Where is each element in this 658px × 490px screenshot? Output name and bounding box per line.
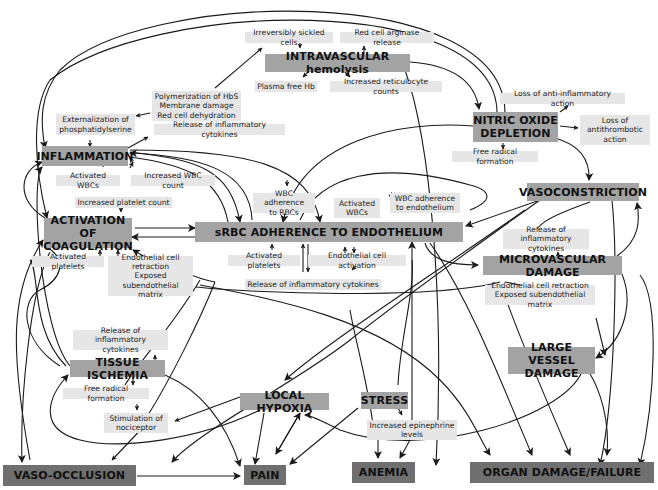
label-free-radical-formation-no: Free radical formation	[452, 151, 538, 162]
label-red-cell-arginase-release: Red cell arginase release	[340, 32, 434, 43]
label-endothelial-cell-retraction-right: Endothelial cell retraction Exposed sube…	[485, 285, 595, 305]
label-loss-of-antithrombotic-action: Loss of antithrombotic action	[580, 115, 650, 145]
node-microvascular-damage: MICROVASCULAR DAMAGE	[483, 256, 622, 275]
label-endothelial-cell-retraction-left: Endothelial cell retraction Exposed sube…	[108, 256, 193, 296]
label-activated-wbcs-center: Activated WBCs	[334, 198, 380, 218]
label-increased-reticulocyte-counts: Increased reticulocyte counts	[330, 81, 442, 92]
node-local-hypoxia: LOCAL HYPOXIA	[240, 393, 329, 410]
node-anemia: ANEMIA	[352, 462, 415, 483]
label-increased-wbc-count: Increased WBC count	[131, 175, 215, 186]
node-nitric-oxide-depletion: NITRIC OXIDE DEPLETION	[473, 112, 558, 142]
label-activated-wbcs-left: Activated WBCs	[56, 175, 120, 186]
node-tissue-ischemia: TISSUE ISCHEMIA	[70, 360, 165, 377]
label-increased-platelet-count: Increased platelet count	[75, 197, 172, 208]
label-stimulation-of-nociceptor: Stimulation of nociceptor	[104, 413, 168, 433]
label-externalization-of-phosphatidylserine: Externalization of phosphatidylserine	[56, 114, 135, 135]
node-pain: PAIN	[244, 465, 286, 485]
node-inflammation: INFLAMMATION	[42, 146, 128, 166]
node-large-vessel-damage: LARGE VESSEL DAMAGE	[508, 347, 595, 374]
node-organ-damage-failure: ORGAN DAMAGE/FAILURE	[470, 462, 654, 483]
label-plasma-free-hb: Plasma free Hb	[255, 81, 317, 92]
node-stress: STRESS	[361, 392, 408, 409]
label-release-cytokines-top: Release of inflammatory cytokines	[154, 124, 285, 135]
label-free-radical-formation-ischemia: Free radical formation	[63, 388, 149, 399]
label-release-cytokines-right: Release of inflammatory cytokines	[503, 229, 589, 249]
node-vasoconstriction: VASOCONSTRICTION	[527, 183, 639, 201]
label-polymerization-of-hbs: Polymerization of HbS Membrane damage Re…	[152, 91, 241, 121]
label-endothelial-cell-activation: Endothelial cell activation	[308, 255, 406, 266]
node-intravascular-hemolysis: INTRAVASCULAR hemolysis	[265, 54, 410, 72]
label-increased-epinephrine-levels: Increased epinephrine levels	[367, 420, 457, 440]
label-release-cytokines-ischemia: Release of inflammatory cytokines	[73, 330, 168, 350]
label-irreversibly-sickled-cells: Irreversibly sickled cells	[245, 32, 333, 43]
node-activation-of-coagulation: ACTIVATION OF COAGULATION	[44, 218, 132, 248]
label-loss-of-anti-inflammatory-action: Loss of anti-inflammatory action	[500, 93, 625, 104]
label-release-cytokines-center: Release of inflammatory cytokines	[245, 279, 381, 290]
node-srbc-adherence: sRBC ADHERENCE TO ENDOTHELIUM	[195, 222, 463, 242]
label-wbc-adherence-to-rbcs: WBC adherence to RBCs	[253, 193, 315, 213]
label-activated-platelets-center: Activated platelets	[228, 255, 300, 266]
node-vaso-occlusion: VASO-OCCLUSION	[3, 465, 136, 486]
label-wbc-adherence-to-endothelium: WBC adherence to endothelium	[390, 193, 460, 213]
label-activated-platelets-left: Activated platelets	[32, 256, 104, 267]
